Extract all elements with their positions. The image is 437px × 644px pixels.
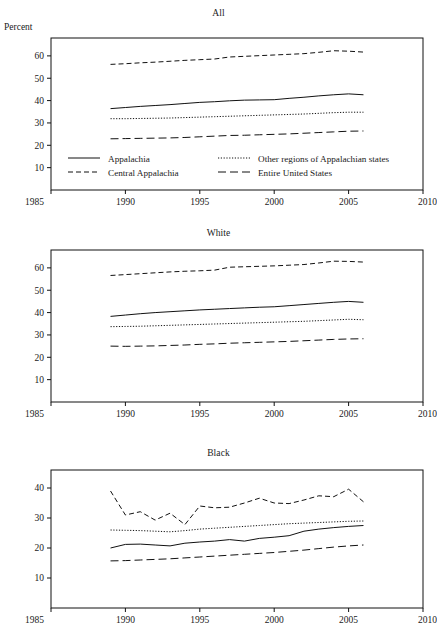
y-tick-label-40: 40: [35, 96, 45, 106]
x-tick-label-1985: 1985: [25, 197, 44, 207]
series-line-solid: [111, 526, 364, 549]
x-tick-label-1995: 1995: [190, 615, 209, 625]
y-tick-label-30: 30: [35, 513, 45, 523]
series-line-dotted: [111, 112, 364, 118]
y-tick-label-20: 20: [35, 543, 45, 553]
panel-black: Black 10203040198519901995200020052010: [0, 448, 437, 644]
y-tick-label-30: 30: [35, 118, 45, 128]
x-tick-label-1990: 1990: [116, 615, 135, 625]
chart-black: 10203040198519901995200020052010: [0, 448, 437, 644]
legend-label-appalachia: Appalachia: [108, 154, 150, 164]
x-tick-label-1985: 1985: [25, 409, 44, 419]
legend-label-central_appalachia: Central Appalachia: [108, 168, 179, 178]
panel-all: All Percent 1020304050601985199019952000…: [0, 8, 437, 220]
chart-white: 102030405060198519901995200020052010: [0, 228, 437, 440]
y-tick-label-50: 50: [35, 286, 45, 296]
x-tick-label-2010: 2010: [418, 409, 437, 419]
panel-white: White 1020304050601985199019952000200520…: [0, 228, 437, 440]
x-tick-label-2000: 2000: [265, 615, 284, 625]
y-tick-label-50: 50: [35, 74, 45, 84]
x-tick-label-1990: 1990: [116, 197, 135, 207]
plot-frame: [51, 250, 423, 402]
y-tick-label-60: 60: [35, 263, 45, 273]
y-tick-label-10: 10: [35, 163, 45, 173]
y-tick-label-60: 60: [35, 51, 45, 61]
cut-off-header-text: [8, 0, 429, 6]
legend-label-other_regions: Other regions of Appalachian states: [258, 154, 390, 164]
series-line-solid: [111, 301, 364, 316]
series-line-longdash: [111, 339, 364, 347]
series-line-dashed: [111, 51, 364, 65]
figure-page: All Percent 1020304050601985199019952000…: [0, 0, 437, 644]
series-line-solid: [111, 94, 364, 109]
plot-frame: [51, 38, 423, 190]
series-line-longdash: [111, 545, 364, 561]
x-tick-label-1995: 1995: [190, 197, 209, 207]
y-tick-label-10: 10: [35, 573, 45, 583]
series-line-dashed: [111, 489, 364, 524]
y-tick-label-40: 40: [35, 308, 45, 318]
y-tick-label-20: 20: [35, 141, 45, 151]
x-tick-label-2000: 2000: [265, 409, 284, 419]
y-tick-label-20: 20: [35, 353, 45, 363]
x-tick-label-2010: 2010: [418, 615, 437, 625]
x-tick-label-2005: 2005: [339, 409, 358, 419]
series-line-dashed: [111, 261, 364, 275]
x-tick-label-2005: 2005: [339, 197, 358, 207]
series-line-dotted: [111, 319, 364, 326]
series-line-dotted: [111, 521, 364, 532]
legend-label-entire_us: Entire United States: [258, 168, 332, 178]
y-tick-label-30: 30: [35, 330, 45, 340]
series-line-longdash: [111, 131, 364, 139]
chart-all: 102030405060198519901995200020052010Appa…: [0, 8, 437, 220]
x-tick-label-2000: 2000: [265, 197, 284, 207]
y-tick-label-40: 40: [35, 483, 45, 493]
y-tick-label-10: 10: [35, 375, 45, 385]
x-tick-label-1985: 1985: [25, 615, 44, 625]
x-tick-label-1995: 1995: [190, 409, 209, 419]
x-tick-label-2010: 2010: [418, 197, 437, 207]
plot-frame: [51, 470, 423, 608]
x-tick-label-1990: 1990: [116, 409, 135, 419]
x-tick-label-2005: 2005: [339, 615, 358, 625]
